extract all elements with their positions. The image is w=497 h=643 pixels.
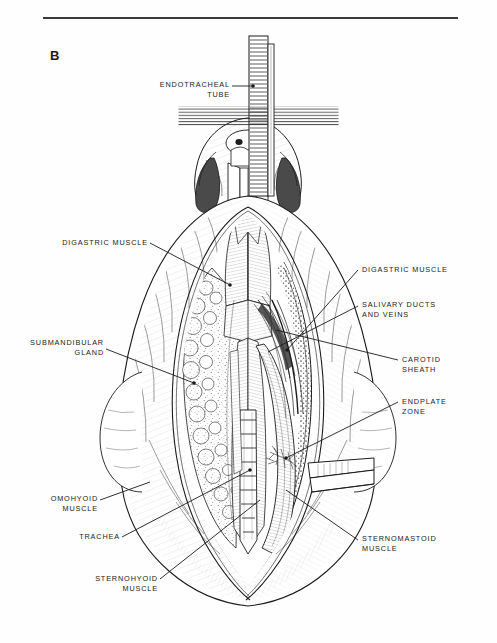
label-omohyoid-muscle: OMOHYOID MUSCLE — [12, 494, 98, 513]
label-endotracheal-tube: ENDOTRACHEAL TUBE — [138, 80, 230, 99]
label-submandibular-gland: SUBMANDIBULAR GLAND — [10, 338, 104, 357]
label-endplate-zone: ENDPLATE ZONE — [402, 397, 492, 416]
trachea — [240, 410, 257, 554]
label-digastric-muscle-left: DIGASTRIC MUSCLE — [38, 238, 148, 248]
label-sternohyoid-muscle: STERNOHYOID MUSCLE — [62, 574, 158, 593]
label-trachea: TRACHEA — [50, 532, 120, 542]
label-carotid-sheath: CAROTID SHEATH — [402, 355, 492, 374]
figure-canvas: B — [0, 0, 497, 643]
label-salivary-ducts-and-veins: SALIVARY DUCTS AND VEINS — [362, 300, 482, 319]
label-digastric-muscle-right: DIGASTRIC MUSCLE — [362, 265, 482, 275]
label-sternomastoid-muscle: STERNOMASTOID MUSCLE — [362, 534, 482, 553]
